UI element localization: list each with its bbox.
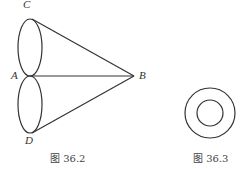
point-label-B: B bbox=[139, 69, 146, 81]
point-label-C: C bbox=[23, 0, 30, 10]
point-label-A: A bbox=[11, 69, 18, 81]
line-CB bbox=[32, 19, 134, 76]
upper-ellipse bbox=[18, 19, 42, 76]
figure-36-3 bbox=[185, 88, 235, 138]
caption-figure-36-2: 图 36.2 bbox=[50, 150, 85, 165]
inner-circle bbox=[197, 100, 223, 126]
caption-figure-36-3: 图 36.3 bbox=[193, 150, 228, 165]
outer-circle bbox=[185, 88, 235, 138]
lower-ellipse bbox=[18, 76, 42, 133]
point-label-D: D bbox=[25, 134, 33, 146]
diagram-canvas bbox=[0, 0, 245, 169]
line-DB bbox=[32, 76, 134, 133]
figure-36-2 bbox=[18, 19, 134, 133]
